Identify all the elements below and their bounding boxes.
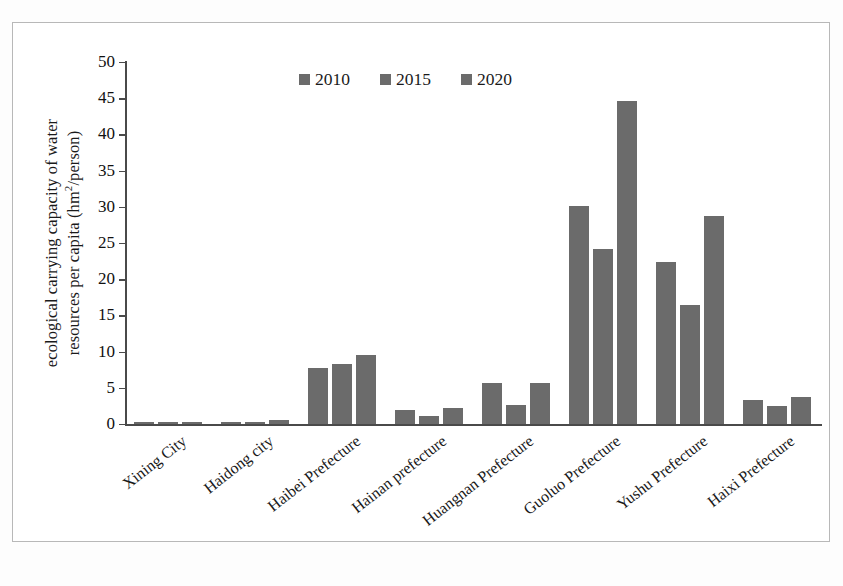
y-axis-title-line1: ecological carrying capacity of water — [41, 119, 62, 367]
x-axis-category-label-text: Haixi Prefecture — [704, 432, 798, 511]
legend-label: 2015 — [396, 71, 431, 89]
legend-item[interactable]: 2010 — [299, 71, 350, 89]
y-axis-tick-label: 50 — [71, 53, 115, 70]
bar[interactable] — [680, 305, 700, 424]
bar[interactable] — [704, 216, 724, 425]
x-axis-category-label-text: Yushu Prefecture — [614, 432, 712, 514]
legend-swatch-icon — [299, 74, 310, 85]
bar-group — [212, 62, 299, 424]
legend: 201020152020 — [299, 71, 512, 89]
bar[interactable] — [419, 416, 439, 424]
bar-group — [733, 62, 820, 424]
legend-label: 2010 — [315, 71, 350, 89]
y-axis-tick-label: 35 — [71, 162, 115, 179]
y-axis-tick-label: 15 — [71, 306, 115, 323]
y-axis-tick-label: 20 — [71, 270, 115, 287]
y-axis-tick-label: 40 — [71, 125, 115, 142]
y-axis-tick-label: 10 — [71, 343, 115, 360]
bars-layer — [125, 62, 820, 424]
bar-group — [473, 62, 560, 424]
y-axis-tick-label: 0 — [71, 415, 115, 432]
bar[interactable] — [506, 405, 526, 424]
bar[interactable] — [767, 406, 787, 424]
y-axis-tick-labels: 05101520253035404550 — [63, 23, 115, 463]
bar-group — [646, 62, 733, 424]
x-axis-category-label-text: Xining City — [119, 432, 190, 493]
bar-group — [386, 62, 473, 424]
y-axis-tick-label: 5 — [71, 379, 115, 396]
figure: ecological carrying capacity of water re… — [0, 0, 843, 586]
chart-frame: ecological carrying capacity of water re… — [12, 22, 830, 542]
x-axis-category-labels: Xining CityHaidong cityHaibei Prefecture… — [125, 424, 820, 564]
y-axis-tick-label: 30 — [71, 198, 115, 215]
bar-group — [125, 62, 212, 424]
y-axis-tick-label: 25 — [71, 234, 115, 251]
legend-item[interactable]: 2015 — [380, 71, 431, 89]
bar[interactable] — [356, 355, 376, 424]
legend-label: 2020 — [477, 71, 512, 89]
legend-swatch-icon — [461, 74, 472, 85]
y-axis-tick-label: 45 — [71, 89, 115, 106]
bar-group — [299, 62, 386, 424]
legend-item[interactable]: 2020 — [461, 71, 512, 89]
x-axis-category-label-text: Haidong city — [200, 432, 277, 497]
legend-swatch-icon — [380, 74, 391, 85]
